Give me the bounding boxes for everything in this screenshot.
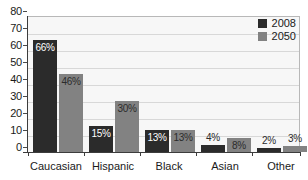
- x-tick-mark: [28, 152, 29, 156]
- bar-2050-asian[interactable]: 8%: [227, 138, 251, 152]
- y-tick-label: 40: [10, 74, 22, 85]
- legend-label-2050: 2050: [272, 31, 296, 42]
- y-axis: 80 70 60 50 40 30 20 10 0: [0, 11, 22, 151]
- x-category-label-other: Other: [267, 160, 295, 173]
- bar-value-label: 46%: [61, 77, 80, 87]
- y-tick-label: 10: [10, 125, 22, 136]
- x-axis-line: [23, 152, 301, 153]
- bar-group-hispanic: 15% 30%: [84, 16, 142, 152]
- y-tick-label: 60: [10, 40, 22, 51]
- bar-value-label: 2%: [262, 136, 276, 146]
- y-tick-mark: [23, 130, 27, 131]
- bar-value-label: 4%: [206, 133, 220, 143]
- legend-label-2008: 2008: [272, 18, 296, 29]
- y-tick-mark: [23, 28, 27, 29]
- y-tick-label: 20: [10, 108, 22, 119]
- bar-group-asian: 4% 8%: [196, 16, 254, 152]
- bar-value-label: 30%: [117, 104, 136, 114]
- y-tick-label: 50: [10, 57, 22, 68]
- y-tick-mark: [23, 45, 27, 46]
- bar-value-label: 66%: [35, 43, 54, 53]
- x-tick-mark: [196, 152, 197, 156]
- x-tick-mark: [300, 152, 301, 156]
- x-category-label-hispanic: Hispanic: [92, 160, 134, 173]
- legend-item-2008[interactable]: 2008: [258, 18, 296, 29]
- legend-swatch-2050: [258, 32, 267, 41]
- x-tick-mark: [84, 152, 85, 156]
- bar-group-caucasian: 66% 46%: [28, 16, 86, 152]
- y-tick-mark: [23, 62, 27, 63]
- x-axis: Caucasian Hispanic Black Asian Other: [28, 160, 300, 178]
- legend-swatch-2008: [258, 19, 267, 28]
- bar-2008-caucasian[interactable]: 66%: [33, 40, 57, 152]
- bar-value-label: 8%: [232, 141, 246, 151]
- bar-2050-hispanic[interactable]: 30%: [115, 101, 139, 152]
- bar-value-label: 13%: [173, 133, 192, 143]
- bar-2008-hispanic[interactable]: 15%: [89, 126, 113, 152]
- x-category-label-black: Black: [156, 160, 183, 173]
- bar-2050-black[interactable]: 13%: [171, 130, 195, 152]
- legend: 2008 2050: [258, 18, 296, 42]
- y-tick-mark: [23, 79, 27, 80]
- bar-value-label: 15%: [91, 129, 110, 139]
- bar-value-label: 3%: [288, 134, 302, 144]
- y-tick-mark: [23, 147, 27, 148]
- x-tick-mark: [252, 152, 253, 156]
- y-tick-label: 80: [10, 6, 22, 17]
- x-category-label-caucasian: Caucasian: [30, 160, 82, 173]
- bar-2008-asian[interactable]: 4%: [201, 145, 225, 152]
- bar-group-black: 13% 13%: [140, 16, 198, 152]
- y-tick-mark: [23, 113, 27, 114]
- x-category-label-asian: Asian: [211, 160, 239, 173]
- y-tick-mark: [23, 96, 27, 97]
- bar-value-label: 13%: [147, 133, 166, 143]
- y-tick-label: 70: [10, 23, 22, 34]
- y-tick-label: 30: [10, 91, 22, 102]
- legend-item-2050[interactable]: 2050: [258, 31, 296, 42]
- bar-chart: 80 70 60 50 40 30 20 10 0 66% 46% 15: [0, 0, 308, 180]
- x-tick-mark: [140, 152, 141, 156]
- y-tick-label: 0: [16, 142, 22, 153]
- bar-2008-black[interactable]: 13%: [145, 130, 169, 152]
- y-tick-mark: [23, 11, 27, 12]
- bar-2050-caucasian[interactable]: 46%: [59, 74, 83, 152]
